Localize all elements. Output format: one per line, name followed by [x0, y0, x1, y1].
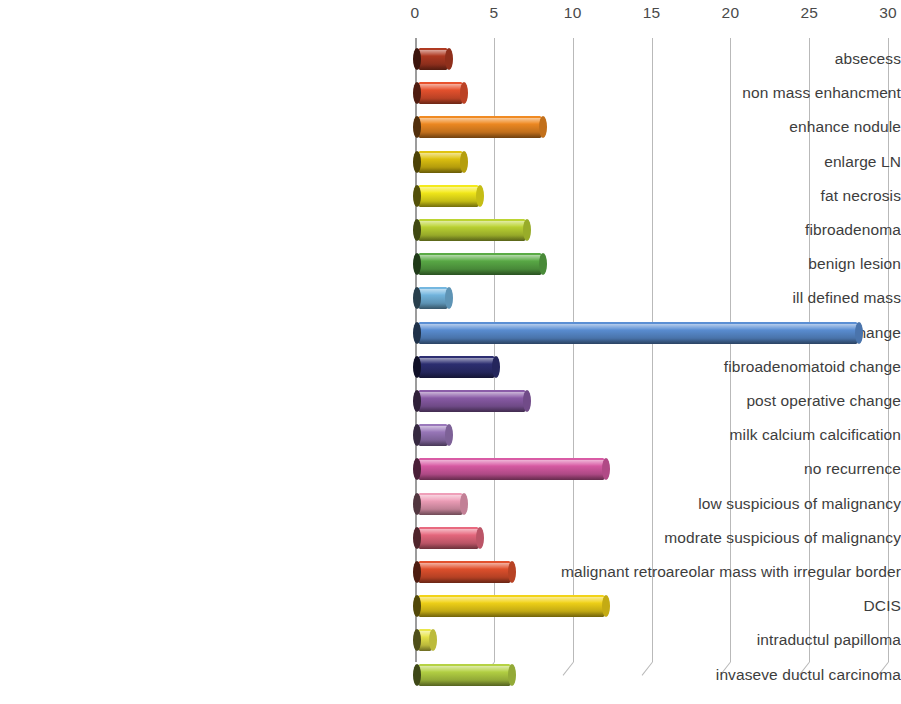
bar-cap-left [413, 664, 421, 686]
bar[interactable] [417, 116, 543, 138]
bar[interactable] [417, 48, 449, 70]
bar-row: non mass enhancment [0, 76, 901, 110]
bar-highlight [417, 84, 464, 90]
bar-shadow [417, 509, 464, 515]
category-label: modrate suspicious of malignancy [505, 521, 901, 555]
bar-shadow [417, 577, 512, 583]
bar-cap-right [476, 527, 484, 549]
x-axis-tick-labels: 051015202530 [0, 4, 901, 30]
bar-row: benign lesion [0, 247, 901, 281]
bar-container [417, 322, 859, 344]
bar-row: fat necrosis [0, 179, 901, 213]
bar[interactable] [417, 664, 512, 686]
bar-row: malignant retroareolar mass with irregul… [0, 555, 901, 589]
bar[interactable] [417, 424, 449, 446]
category-label: benign lesion [505, 247, 901, 281]
bar[interactable] [417, 82, 464, 104]
bar-container [417, 561, 512, 583]
x-tick-label: 0 [411, 4, 420, 22]
bar-shadow [417, 64, 449, 70]
bar-shadow [417, 338, 859, 344]
bar-row: invaseve ductul carcinoma [0, 658, 901, 692]
bar-shadow [417, 543, 480, 549]
bar-row: post operative change [0, 384, 901, 418]
bar-shadow [417, 269, 543, 275]
category-label: intraductul papilloma [505, 623, 901, 657]
bar[interactable] [417, 629, 433, 651]
bar[interactable] [417, 561, 512, 583]
category-label: fibroadenoma [505, 213, 901, 247]
bar-highlight [417, 221, 527, 227]
bar-container [417, 527, 480, 549]
bar-shadow [417, 201, 480, 207]
bar-row: modrate suspicious of malignancy [0, 521, 901, 555]
bar[interactable] [417, 219, 527, 241]
bar-container [417, 116, 543, 138]
bar-cap-left [413, 527, 421, 549]
bar[interactable] [417, 287, 449, 309]
bar-cap-right [492, 356, 500, 378]
bar-highlight [417, 153, 464, 159]
bar-highlight [417, 597, 606, 603]
bar-cap-left [413, 219, 421, 241]
bar-highlight [417, 358, 496, 364]
x-tick-label: 5 [489, 4, 498, 22]
bar-shadow [417, 406, 527, 412]
bar-cap-left [413, 356, 421, 378]
bar-container [417, 287, 449, 309]
bar-container [417, 595, 606, 617]
bar[interactable] [417, 527, 480, 549]
bar-container [417, 424, 449, 446]
bar-container [417, 253, 543, 275]
bar[interactable] [417, 458, 606, 480]
bar[interactable] [417, 595, 606, 617]
bar-highlight [417, 563, 512, 569]
bar-row: fibrocystic change [0, 316, 901, 350]
bar-container [417, 664, 512, 686]
bar-shadow [417, 98, 464, 104]
bar-container [417, 629, 433, 651]
bar-container [417, 82, 464, 104]
bar-cap-right [429, 629, 437, 651]
category-label: invaseve ductul carcinoma [505, 658, 901, 692]
bar-shadow [417, 440, 449, 446]
bar-cap-right [508, 664, 516, 686]
bar[interactable] [417, 185, 480, 207]
bar-cap-left [413, 561, 421, 583]
bar-container [417, 493, 464, 515]
bar-cap-right [445, 424, 453, 446]
bar-highlight [417, 324, 859, 330]
bar-container [417, 356, 496, 378]
bar-row: fibroadenomatoid change [0, 350, 901, 384]
bar[interactable] [417, 151, 464, 173]
bar-cap-right [855, 322, 863, 344]
bar-row: enhance nodule [0, 110, 901, 144]
bar-container [417, 219, 527, 241]
bar-shadow [417, 372, 496, 378]
bar-highlight [417, 187, 480, 193]
bar-cap-right [445, 48, 453, 70]
category-label: post operative change [505, 384, 901, 418]
bar[interactable] [417, 356, 496, 378]
category-label: non mass enhancment [505, 76, 901, 110]
bar[interactable] [417, 322, 859, 344]
bar-container [417, 185, 480, 207]
bar-cap-right [445, 287, 453, 309]
bar-shadow [417, 474, 606, 480]
bar[interactable] [417, 390, 527, 412]
bar-cap-right [460, 82, 468, 104]
bar-cap-left [413, 48, 421, 70]
bar-row: ill defined mass [0, 281, 901, 315]
bar[interactable] [417, 253, 543, 275]
bar-container [417, 48, 449, 70]
bar-highlight [417, 529, 480, 535]
bar[interactable] [417, 493, 464, 515]
category-label: enhance nodule [505, 110, 901, 144]
bar-highlight [417, 392, 527, 398]
bar-shadow [417, 680, 512, 686]
bar-shadow [417, 303, 449, 309]
bar-cap-right [508, 561, 516, 583]
x-tick-label: 20 [722, 4, 740, 22]
x-tick-label: 30 [879, 4, 897, 22]
bar-chart: 051015202530 absecessnon mass enhancment… [0, 0, 901, 704]
